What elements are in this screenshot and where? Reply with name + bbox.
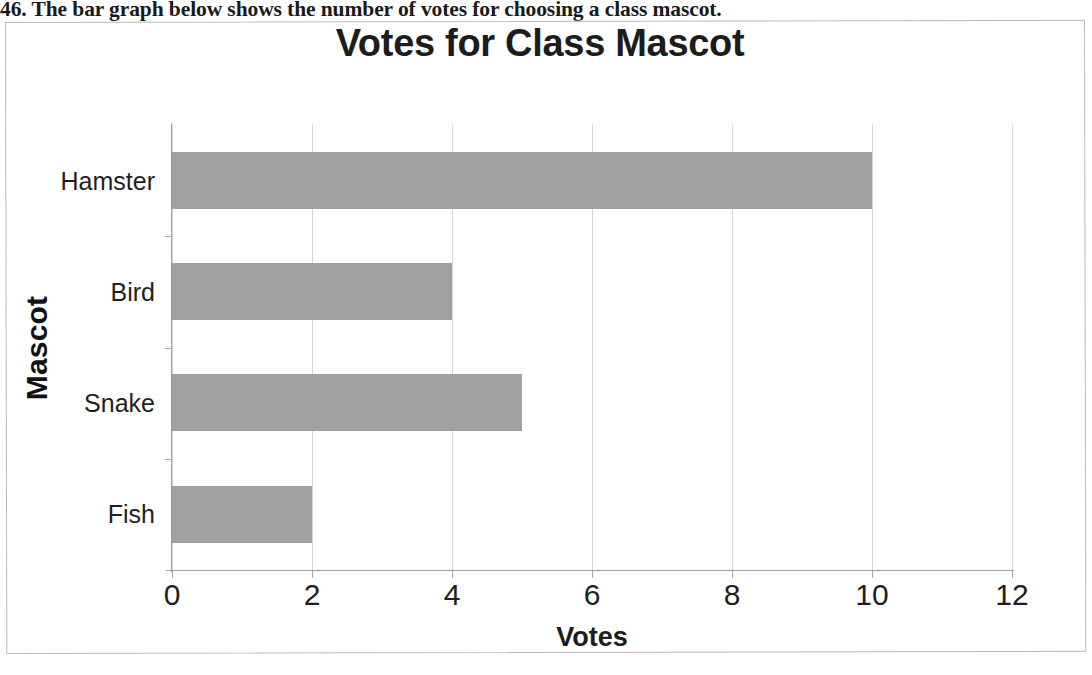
chart-title: Votes for Class Mascot xyxy=(0,22,1080,65)
x-axis-tick-label-6: 6 xyxy=(552,578,632,612)
x-axis-tick-2 xyxy=(312,570,313,578)
x-axis-tick-label-4: 4 xyxy=(412,578,492,612)
x-axis-tick-8 xyxy=(732,570,733,578)
gridline-10 xyxy=(872,125,873,570)
bar-fish[interactable] xyxy=(172,486,312,543)
bar-snake[interactable] xyxy=(172,374,522,431)
x-axis-tick-label-10: 10 xyxy=(832,578,912,612)
x-axis-tick-0 xyxy=(172,570,173,578)
bar-hamster[interactable] xyxy=(172,152,872,209)
worksheet-question-text: 46. The bar graph below shows the number… xyxy=(0,0,1092,22)
y-axis-tick-3 xyxy=(165,459,172,460)
y-axis-label-hamster: Hamster xyxy=(0,166,155,195)
x-axis-tick-6 xyxy=(592,570,593,578)
x-axis-tick-label-2: 2 xyxy=(272,578,352,612)
x-axis-tick-4 xyxy=(452,570,453,578)
x-axis-title: Votes xyxy=(172,622,1012,653)
x-axis-tick-12 xyxy=(1012,570,1013,578)
x-axis-tick-label-12: 12 xyxy=(972,578,1052,612)
y-axis-tick-1 xyxy=(165,236,172,237)
x-axis-tick-labels: 0 2 4 6 8 10 12 xyxy=(172,578,1012,618)
y-axis-label-fish: Fish xyxy=(0,500,155,529)
y-axis-title-text: Mascot xyxy=(20,296,54,401)
x-axis-tick-label-0: 0 xyxy=(132,578,212,612)
x-axis-tick-label-8: 8 xyxy=(692,578,772,612)
plot-area xyxy=(172,125,1012,570)
x-axis-line xyxy=(166,570,1014,571)
gridline-12 xyxy=(1012,125,1013,570)
bar-bird[interactable] xyxy=(172,263,452,320)
x-axis-tick-10 xyxy=(872,570,873,578)
y-axis-tick-2 xyxy=(165,348,172,349)
y-axis-title: Mascot xyxy=(12,268,62,428)
